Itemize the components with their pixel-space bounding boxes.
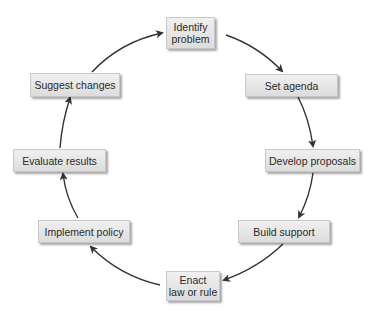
arrow-develop-to-support [299,173,313,217]
arrow-agenda-to-develop [298,97,313,146]
arrow-suggest-to-identify [92,33,162,72]
step-set-agenda: Set agenda [245,74,338,97]
arrow-support-to-enact [224,244,283,280]
step-suggest-changes: Suggest changes [30,73,120,97]
step-enact-law: Enactlaw or rule [166,271,220,301]
step-identify-problem: Identifyproblem [166,17,215,49]
step-evaluate-results: Evaluate results [13,149,106,172]
arrow-enact-to-implement [91,247,160,285]
arrow-identify-to-agenda [226,35,282,71]
step-build-support: Build support [238,220,330,243]
step-develop-proposals: Develop proposals [265,149,360,172]
arrow-implement-to-evaluate [63,174,78,218]
step-implement-policy: Implement policy [38,220,130,243]
arrow-evaluate-to-suggest [60,98,70,148]
